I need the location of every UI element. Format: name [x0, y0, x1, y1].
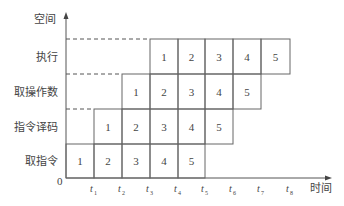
instruction-number: 4 [216, 86, 222, 98]
instruction-number: 2 [133, 121, 139, 133]
time-tick-label: t [229, 183, 232, 194]
time-tick-label: t [118, 183, 121, 194]
time-ticks: t1t2t3t4t5t6t7t8 [90, 183, 293, 196]
y-axis-label: 空间 [34, 12, 56, 26]
time-tick-subscript: 7 [261, 190, 264, 196]
x-axis-label: 时间 [310, 182, 332, 195]
pipeline-grid: 12345123451234512345 [66, 39, 290, 178]
time-tick-subscript: 8 [290, 190, 293, 196]
instruction-number: 5 [244, 86, 250, 98]
instruction-number: 2 [105, 155, 111, 167]
instruction-number: 3 [216, 51, 222, 63]
pipeline-space-time-diagram: 空间 时间 0 12345123451234512345 执行取操作数指令译码取… [0, 0, 344, 206]
instruction-number: 3 [133, 155, 139, 167]
instruction-number: 2 [189, 51, 195, 63]
instruction-number: 5 [216, 121, 222, 133]
instruction-number: 4 [244, 51, 250, 63]
time-tick-subscript: 5 [205, 190, 208, 196]
instruction-number: 1 [105, 121, 111, 133]
time-tick-label: t [146, 183, 149, 194]
stage-label: 执行 [36, 50, 58, 64]
time-tick-subscript: 3 [150, 190, 153, 196]
x-axis-arrow-icon [325, 176, 332, 181]
time-tick-label: t [90, 183, 93, 194]
stage-label: 取操作数 [14, 85, 58, 99]
time-tick-label: t [201, 183, 204, 194]
time-tick-subscript: 2 [122, 190, 125, 196]
stage-label: 指令译码 [14, 120, 58, 134]
instruction-number: 1 [161, 51, 167, 63]
instruction-number: 2 [161, 86, 167, 98]
time-tick-subscript: 1 [94, 190, 97, 196]
instruction-number: 4 [189, 121, 195, 133]
instruction-number: 3 [189, 86, 195, 98]
instruction-number: 3 [161, 121, 167, 133]
instruction-number: 1 [133, 86, 139, 98]
instruction-number: 5 [273, 51, 279, 63]
origin-label: 0 [57, 175, 63, 187]
time-tick-label: t [257, 183, 260, 194]
time-tick-label: t [174, 183, 177, 194]
instruction-number: 1 [77, 155, 83, 167]
time-tick-label: t [286, 183, 289, 194]
stage-label: 取指令 [25, 154, 58, 168]
instruction-number: 4 [161, 155, 167, 167]
stage-labels: 执行取操作数指令译码取指令 [14, 50, 58, 169]
instruction-number: 5 [189, 155, 195, 167]
y-axis-arrow-icon [64, 12, 69, 19]
time-tick-subscript: 6 [233, 190, 236, 196]
time-tick-subscript: 4 [178, 190, 181, 196]
